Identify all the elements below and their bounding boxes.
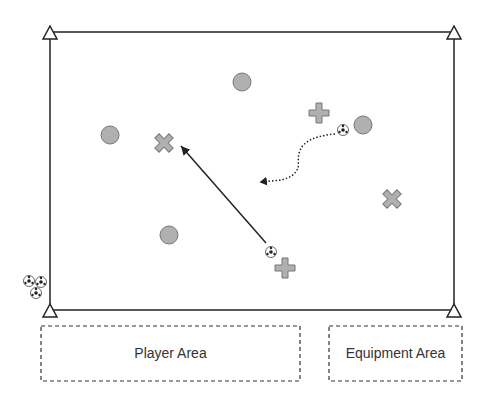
equipment-area-label: Equipment Area (329, 345, 462, 361)
soccer-ball-icon (24, 276, 35, 287)
player-cross (378, 185, 406, 213)
player-cross (275, 258, 295, 278)
player-cross (150, 129, 178, 157)
dribble-path (261, 134, 335, 182)
player-circle (354, 116, 372, 134)
player-circle (160, 226, 178, 244)
player-area-label: Player Area (41, 345, 300, 361)
player-circle (233, 73, 251, 91)
field-boundary (50, 32, 454, 310)
drill-diagram (0, 0, 488, 401)
soccer-ball-icon (36, 277, 47, 288)
player-cross (309, 103, 329, 123)
soccer-ball-icon (31, 288, 42, 299)
soccer-ball-icon (266, 247, 277, 258)
pass-arrow (181, 146, 266, 243)
player-circle (101, 126, 119, 144)
soccer-ball-icon (338, 125, 349, 136)
